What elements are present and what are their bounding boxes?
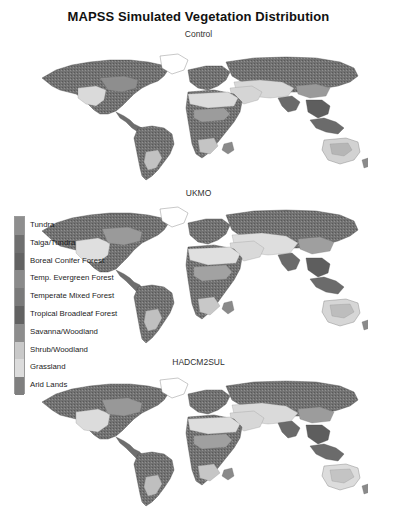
page-title: MAPSS Simulated Vegetation Distribution [0, 9, 397, 24]
legend-swatch [15, 288, 24, 306]
legend-item-label: Temp. Evergreen Forest [30, 269, 148, 287]
legend-swatch [15, 359, 24, 377]
legend-item-label: Arid Lands [30, 376, 148, 394]
legend-item-label: Savanna/Woodland [30, 323, 148, 341]
legend-item-label: Tropical Broadleaf Forest [30, 305, 148, 323]
legend-item-label: Tundra [30, 216, 148, 234]
region-sahel [194, 434, 232, 449]
region-sahel [194, 265, 232, 281]
map-panel-control [38, 48, 368, 183]
legend-item-label: Boreal Conifer Forest [30, 252, 148, 270]
legend-swatch [15, 235, 24, 253]
legend-swatch [15, 342, 24, 360]
legend-item-label: Temperate Mixed Forest [30, 287, 148, 305]
legend-label-list: TundraTaiga/TundraBoreal Conifer ForestT… [30, 216, 148, 394]
legend-color-bar [14, 216, 25, 394]
legend-swatch [15, 377, 24, 395]
legend-item-label: Taiga/Tundra [30, 234, 148, 252]
panel-title-ukmo: UKMO [0, 188, 397, 198]
legend-item-label: Grassland [30, 358, 148, 376]
legend-swatch [15, 217, 24, 235]
legend-swatch [15, 306, 24, 324]
world-map-control [38, 48, 368, 183]
legend-swatch [15, 324, 24, 342]
legend-swatch [15, 270, 24, 288]
figure-root: MAPSS Simulated Vegetation Distribution … [0, 0, 397, 521]
panel-title-control: Control [0, 29, 397, 39]
legend-swatch [15, 253, 24, 271]
legend-item-label: Shrub/Woodland [30, 341, 148, 359]
